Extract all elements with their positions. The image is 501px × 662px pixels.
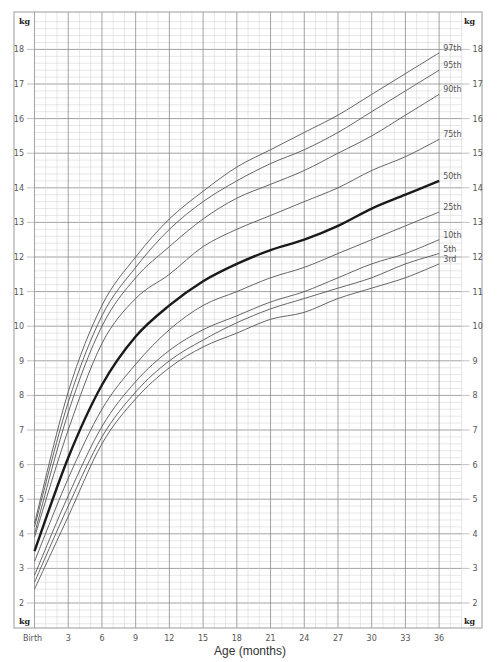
y-tick-label: 15 — [473, 149, 483, 158]
unit-label-top-left: kg — [19, 16, 31, 26]
y-tick-label: 8 — [19, 391, 24, 400]
unit-label-top-right: kg — [464, 16, 476, 26]
y-tick-label: 10 — [473, 322, 483, 331]
percentile-label-90th: 90th — [443, 85, 461, 94]
y-tick-label: 17 — [473, 80, 483, 89]
y-tick-label: 2 — [19, 599, 24, 608]
y-tick-label: 8 — [473, 391, 478, 400]
x-tick-label: 12 — [164, 634, 174, 643]
y-tick-label: 7 — [473, 426, 478, 435]
percentile-label-97th: 97th — [443, 44, 461, 53]
y-tick-label: 4 — [473, 530, 478, 539]
y-tick-label: 18 — [473, 45, 483, 54]
y-tick-label: 5 — [473, 495, 478, 504]
x-tick-label: 21 — [265, 634, 275, 643]
y-tick-label: 4 — [19, 530, 24, 539]
y-tick-label: 13 — [473, 218, 483, 227]
x-tick-label: Birth — [23, 634, 42, 643]
unit-label-bottom-left: kg — [19, 616, 31, 626]
x-tick-label: 24 — [299, 634, 309, 643]
percentile-label-5th: 5th — [443, 245, 456, 254]
y-axis-right: 23456789101112131415161718 — [462, 45, 483, 608]
y-tick-label: 12 — [473, 253, 483, 262]
unit-label-bottom-right: kg — [464, 616, 476, 626]
y-tick-label: 15 — [14, 149, 24, 158]
y-tick-label: 3 — [19, 564, 24, 573]
percentile-label-75th: 75th — [443, 130, 461, 139]
x-tick-label: 15 — [198, 634, 208, 643]
y-tick-label: 3 — [473, 564, 478, 573]
y-axis-left: 23456789101112131415161718 — [14, 45, 35, 608]
growth-chart: 23456789101112131415161718 2345678910111… — [0, 0, 501, 662]
y-tick-label: 2 — [473, 599, 478, 608]
y-tick-label: 14 — [473, 184, 483, 193]
percentile-label-95th: 95th — [443, 61, 461, 70]
y-tick-label: 6 — [473, 461, 478, 470]
x-tick-label: 30 — [367, 634, 377, 643]
x-tick-label: 9 — [133, 634, 138, 643]
y-tick-label: 13 — [14, 218, 24, 227]
percentile-label-25th: 25th — [443, 203, 461, 212]
percentile-label-3rd: 3rd — [443, 255, 456, 264]
y-tick-label: 12 — [14, 253, 24, 262]
y-tick-label: 6 — [19, 461, 24, 470]
x-axis: Birth369121518212427303336 — [23, 634, 444, 643]
y-tick-label: 9 — [473, 357, 478, 366]
y-tick-label: 16 — [14, 115, 24, 124]
y-tick-label: 7 — [19, 426, 24, 435]
y-tick-label: 18 — [14, 45, 24, 54]
y-tick-label: 5 — [19, 495, 24, 504]
y-tick-label: 11 — [14, 288, 24, 297]
y-tick-label: 14 — [14, 184, 24, 193]
y-tick-label: 11 — [473, 288, 483, 297]
x-tick-label: 3 — [66, 634, 71, 643]
x-axis-title: Age (months) — [214, 644, 286, 658]
y-tick-label: 10 — [14, 322, 24, 331]
y-tick-label: 9 — [19, 357, 24, 366]
x-tick-label: 18 — [232, 634, 242, 643]
x-tick-label: 33 — [400, 634, 410, 643]
chart-grid — [35, 12, 462, 628]
x-tick-label: 36 — [434, 634, 444, 643]
x-tick-label: 6 — [99, 634, 104, 643]
y-tick-label: 16 — [473, 115, 483, 124]
percentile-label-10th: 10th — [443, 231, 461, 240]
y-tick-label: 17 — [14, 80, 24, 89]
percentile-label-50th: 50th — [443, 172, 461, 181]
x-tick-label: 27 — [333, 634, 343, 643]
